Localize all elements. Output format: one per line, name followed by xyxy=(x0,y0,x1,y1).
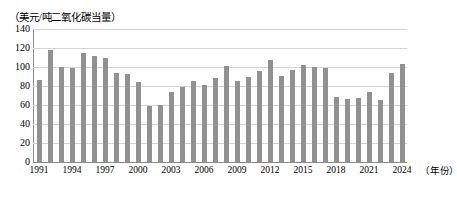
y-axis-tick-label: 80 xyxy=(20,81,30,91)
bar xyxy=(59,67,64,162)
bar xyxy=(180,87,185,162)
y-axis-tick-label: 40 xyxy=(20,119,30,129)
bar xyxy=(125,74,130,162)
bar xyxy=(312,67,317,162)
bar xyxy=(114,73,119,162)
y-axis-tick-label: 60 xyxy=(20,100,30,110)
bar xyxy=(290,70,295,162)
bar xyxy=(356,98,361,162)
x-axis-tick-label: 2015 xyxy=(286,164,320,176)
x-axis-tick-label: 2021 xyxy=(352,164,386,176)
y-axis-tick-label: 140 xyxy=(15,24,30,34)
x-axis-tick-label: 1997 xyxy=(88,164,122,176)
bar xyxy=(378,100,383,162)
bar xyxy=(92,56,97,162)
plot-area xyxy=(33,29,407,162)
y-axis-tick-label: 100 xyxy=(15,62,30,72)
bar xyxy=(147,106,152,162)
gridline xyxy=(33,143,407,144)
gridline xyxy=(33,105,407,106)
gridline xyxy=(33,29,407,30)
gridline xyxy=(33,86,407,87)
bar xyxy=(235,81,240,162)
gridline xyxy=(33,67,407,68)
x-axis-tick-label: 2003 xyxy=(154,164,188,176)
bar xyxy=(334,97,339,162)
bar xyxy=(213,78,218,162)
x-axis-tick-label: 2012 xyxy=(253,164,287,176)
x-axis-tick-label: 1991 xyxy=(22,164,56,176)
bar xyxy=(323,68,328,162)
x-axis-tick-label: 2009 xyxy=(220,164,254,176)
gridline xyxy=(33,48,407,49)
y-axis-tick-label: 20 xyxy=(20,138,30,148)
bar xyxy=(389,73,394,162)
bar xyxy=(136,82,141,162)
y-axis-tick-label: 120 xyxy=(15,43,30,53)
bar xyxy=(279,76,284,162)
gridline xyxy=(33,124,407,125)
bar xyxy=(367,92,372,162)
bar xyxy=(268,60,273,162)
bar xyxy=(257,71,262,162)
bar xyxy=(202,85,207,162)
bar xyxy=(246,77,251,163)
bar xyxy=(81,53,86,162)
bar xyxy=(48,50,53,162)
x-axis-tick-label: 1994 xyxy=(55,164,89,176)
bar xyxy=(70,68,75,162)
bar xyxy=(301,65,306,162)
bar xyxy=(345,99,350,162)
bar xyxy=(169,92,174,162)
x-axis-tick-label: 2006 xyxy=(187,164,221,176)
bar xyxy=(191,81,196,162)
bar xyxy=(103,58,108,162)
x-axis-caption: （年份） xyxy=(420,165,457,177)
bar xyxy=(400,64,405,162)
x-axis-baseline xyxy=(33,162,407,163)
x-axis-tick-labels: 1991199419972000200320062009201220152018… xyxy=(0,164,442,180)
bar xyxy=(158,105,163,162)
x-axis-tick-label: 2018 xyxy=(319,164,353,176)
x-axis-tick-label: 2000 xyxy=(121,164,155,176)
bar xyxy=(37,80,42,162)
bar xyxy=(224,66,229,162)
x-axis-tick-label: 2024 xyxy=(385,164,419,176)
